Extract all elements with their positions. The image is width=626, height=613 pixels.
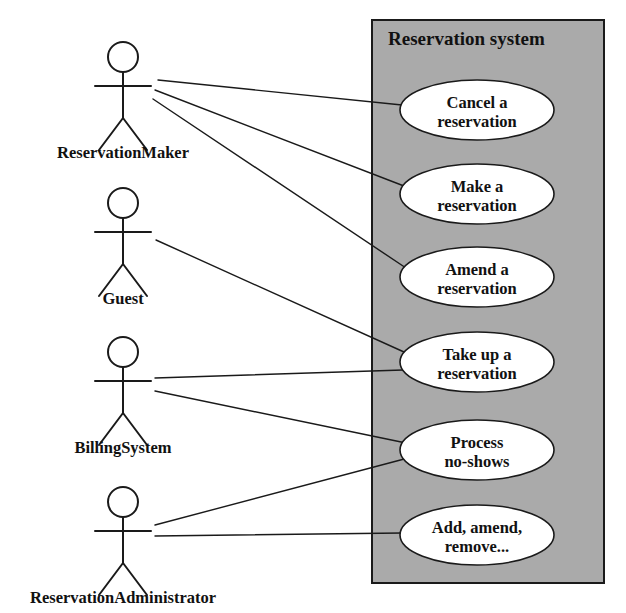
uml-canvas: Cancel areservationMake areservationAmen… bbox=[0, 0, 626, 613]
use-case-label-line1-takeup: Take up a bbox=[442, 345, 511, 364]
association-line-bs-takeup[interactable] bbox=[155, 370, 403, 378]
association-line-bs-noshow[interactable] bbox=[155, 391, 406, 443]
actor-reservation-administrator[interactable]: ReservationAdministrator bbox=[30, 487, 216, 607]
actor-label-reservation-maker: ReservationMaker bbox=[57, 143, 189, 162]
association-lines-group bbox=[153, 80, 408, 536]
actor-head-icon-reservation-maker bbox=[108, 42, 138, 72]
actor-billing-system[interactable]: BillingSystem bbox=[74, 337, 171, 457]
actor-label-guest: Guest bbox=[102, 289, 144, 308]
association-line-rm-cancel[interactable] bbox=[158, 80, 402, 105]
use-case-label-line2-takeup: reservation bbox=[437, 364, 516, 383]
actor-guest[interactable]: Guest bbox=[95, 188, 151, 308]
use-case-label-line1-make: Make a bbox=[451, 177, 504, 196]
actor-head-icon-guest bbox=[108, 188, 138, 218]
association-line-rm-make[interactable] bbox=[155, 90, 404, 186]
use-case-label-line1-cancel: Cancel a bbox=[447, 93, 508, 112]
use-case-admin[interactable]: Add, amend,remove... bbox=[400, 505, 554, 565]
use-case-label-line1-noshow: Process bbox=[451, 433, 504, 452]
use-case-label-line2-amend: reservation bbox=[437, 279, 516, 298]
actor-head-icon-reservation-administrator bbox=[108, 487, 138, 517]
use-case-amend[interactable]: Amend areservation bbox=[400, 247, 554, 307]
actor-label-billing-system: BillingSystem bbox=[74, 438, 171, 457]
use-case-label-line2-make: reservation bbox=[437, 196, 516, 215]
use-case-label-line2-admin: remove... bbox=[445, 537, 509, 556]
system-boundary-title: Reservation system bbox=[388, 28, 545, 49]
use-case-make[interactable]: Make areservation bbox=[400, 164, 554, 224]
actors-group: ReservationMakerGuestBillingSystemReserv… bbox=[30, 42, 216, 607]
association-line-ra-admin[interactable] bbox=[155, 533, 402, 536]
association-line-rm-amend[interactable] bbox=[153, 99, 406, 268]
actor-head-icon-billing-system bbox=[108, 337, 138, 367]
use-case-label-line2-cancel: reservation bbox=[437, 112, 516, 131]
association-line-guest-takeup[interactable] bbox=[156, 240, 404, 352]
use-case-diagram-root: Cancel areservationMake areservationAmen… bbox=[0, 0, 626, 613]
use-case-cancel[interactable]: Cancel areservation bbox=[400, 80, 554, 140]
use-case-label-line1-amend: Amend a bbox=[445, 260, 509, 279]
use-case-noshow[interactable]: Processno-shows bbox=[400, 420, 554, 480]
actor-reservation-maker[interactable]: ReservationMaker bbox=[57, 42, 189, 162]
association-line-ra-noshow[interactable] bbox=[155, 458, 408, 525]
use-case-label-line2-noshow: no-shows bbox=[444, 452, 510, 471]
actor-label-reservation-administrator: ReservationAdministrator bbox=[30, 588, 216, 607]
use-case-takeup[interactable]: Take up areservation bbox=[400, 332, 554, 392]
use-case-label-line1-admin: Add, amend, bbox=[432, 518, 522, 537]
